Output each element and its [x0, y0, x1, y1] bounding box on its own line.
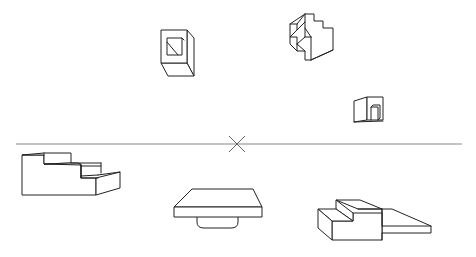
- table-slab-shape: [174, 189, 262, 228]
- hollow-cube-shape: [161, 30, 194, 76]
- stepped-platform-shape: [318, 200, 431, 240]
- drawing-canvas: One-point perspective drawing of blocks: [0, 0, 476, 257]
- small-box-shape: [354, 97, 383, 122]
- staircase-shape: [22, 153, 120, 195]
- zigzag-block-shape: [290, 14, 333, 60]
